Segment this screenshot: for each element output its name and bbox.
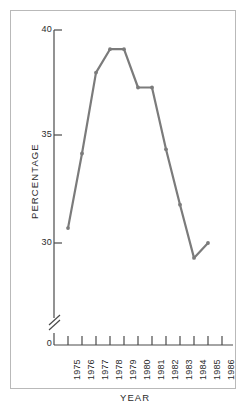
data-series-line <box>68 49 208 258</box>
data-point <box>178 203 182 207</box>
data-point <box>94 71 98 75</box>
data-point <box>150 86 154 90</box>
data-point <box>108 47 112 51</box>
data-point <box>66 226 70 230</box>
data-point <box>164 147 168 151</box>
data-point <box>192 256 196 260</box>
axis-lines <box>54 30 233 345</box>
x-axis-ticks <box>68 336 222 345</box>
data-point <box>80 152 84 156</box>
data-point <box>122 47 126 51</box>
data-point-markers <box>66 47 210 259</box>
data-point <box>206 241 210 245</box>
y-axis-ticks <box>54 30 62 243</box>
line-chart-plot <box>0 0 251 409</box>
data-point <box>136 86 140 90</box>
